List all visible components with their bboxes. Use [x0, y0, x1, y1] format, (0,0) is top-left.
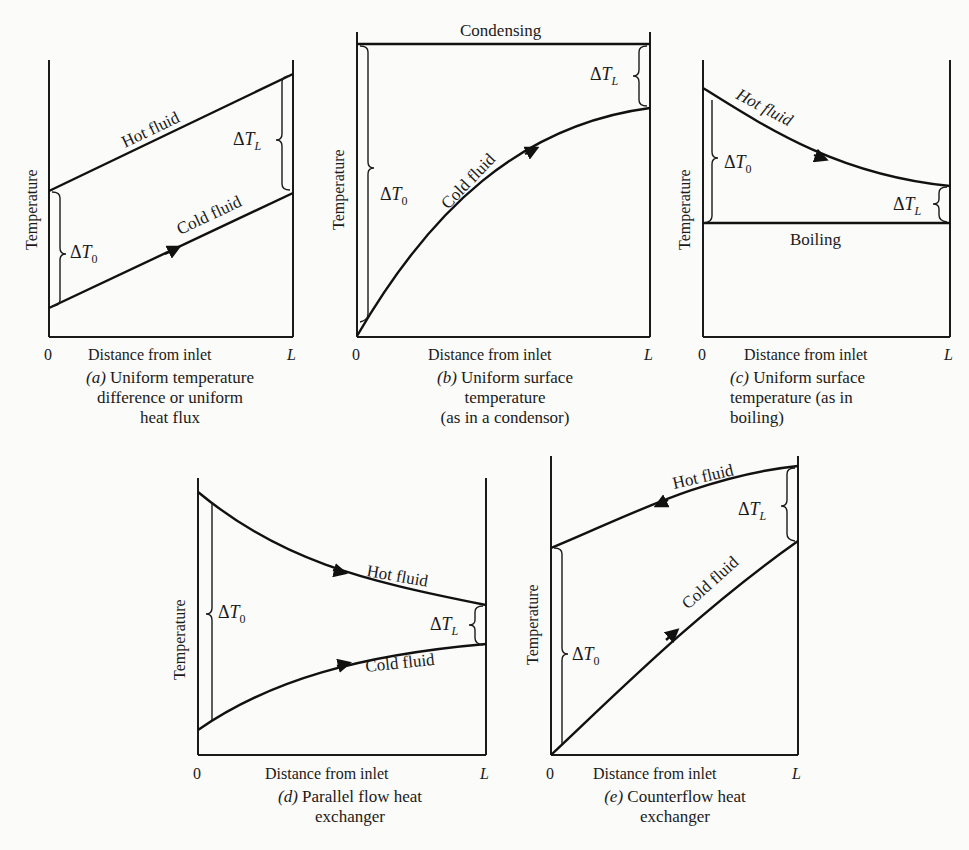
panel-b-delta-tl-label: ΔTL: [590, 64, 619, 88]
panel-c-delta-t0-label: ΔT0: [724, 152, 752, 176]
panel-d-cold-fluid-label: Cold fluid: [364, 650, 436, 676]
panel-b-caption: (b) Uniform surface temperature (as in a…: [390, 368, 620, 428]
panel-a-delta-tl-label: ΔTL: [233, 129, 262, 153]
panel-d-delta-t0-brace: [206, 503, 212, 720]
panel-c-x-end-label: L: [943, 346, 953, 363]
panel-d-delta-tl-brace: [469, 606, 483, 645]
panel-a-delta-tl-brace: [276, 76, 290, 190]
panel-e-caption-tag: (e): [604, 787, 623, 806]
panel-c-caption-tag: (c): [730, 368, 749, 387]
panel-e-x-start-label: 0: [546, 765, 554, 782]
panel-c-delta-t0-brace: [704, 100, 718, 223]
panel-a-caption-tag: (a): [86, 368, 106, 387]
panel-a-x-start-label: 0: [44, 346, 52, 363]
panel-e-x-axis-label: Distance from inlet: [593, 765, 717, 782]
panel-b-cold-fluid-curve: [357, 108, 650, 336]
panel-b-delta-t0-brace: [360, 46, 374, 322]
panel-a-delta-t0-brace: [52, 192, 66, 306]
panel-d-y-axis-label: Temperature: [171, 599, 189, 680]
panel-e-delta-tl-label: ΔTL: [738, 499, 767, 523]
panel-d-cold-fluid-curve: [198, 644, 486, 730]
panel-a-x-axis-label: Distance from inlet: [88, 346, 212, 363]
panel-e-caption-line-2: exchanger: [560, 807, 790, 827]
panel-a-caption: (a) Uniform temperature difference or un…: [40, 368, 300, 428]
panel-b-delta-t0-label: ΔT0: [380, 184, 408, 208]
panel-c-delta-tl-brace: [933, 187, 947, 222]
panel-c-y-axis-label: Temperature: [676, 169, 694, 250]
panel-b-condensing: ΔT0 ΔTL Condensing Cold fluid Temperatur…: [330, 21, 653, 363]
panel-a-caption-line-3: heat flux: [40, 408, 300, 428]
panel-d-caption-line-2: exchanger: [230, 807, 470, 827]
panel-d-hot-fluid-curve: [198, 492, 486, 605]
panel-c-hot-flow-arrow-icon: [814, 155, 822, 158]
panel-e-caption: (e) Counterflow heat exchanger: [560, 787, 790, 827]
panel-a-delta-t0-label: ΔT0: [70, 242, 98, 266]
panel-e-delta-t0-brace: [554, 548, 568, 744]
panel-c-x-start-label: 0: [698, 346, 706, 363]
panel-b-cold-fluid-label: Cold fluid: [437, 149, 499, 212]
panel-c-boiling: ΔT0 ΔTL Hot fluid Boiling Temperature 0 …: [676, 60, 953, 363]
panel-d-x-start-label: 0: [193, 765, 201, 782]
panel-b-x-start-label: 0: [352, 346, 360, 363]
panel-a-hot-fluid-line: [49, 74, 293, 191]
panel-d-caption-line-1: Parallel flow heat: [298, 787, 422, 806]
panel-a-uniform-temperature-difference: ΔT0 ΔTL Hot fluid Cold fluid Temperature…: [23, 60, 296, 363]
panel-c-caption-line-3: boiling): [730, 408, 930, 428]
panel-e-y-axis-label: Temperature: [524, 584, 542, 665]
panel-e-delta-tl-brace: [781, 468, 795, 541]
panel-d-delta-tl-label: ΔTL: [430, 614, 459, 638]
panel-c-delta-tl-label: ΔTL: [893, 194, 922, 218]
panel-c-boiling-label: Boiling: [790, 230, 842, 249]
panel-e-x-end-label: L: [791, 765, 801, 782]
panel-c-caption: (c) Uniform surface temperature (as in b…: [730, 368, 930, 428]
panel-b-caption-line-1: Uniform surface: [457, 368, 573, 387]
panel-e-cold-flow-arrow-icon: [666, 633, 674, 640]
panel-e-hot-fluid-label: Hot fluid: [671, 460, 736, 493]
panel-a-y-axis-label: Temperature: [23, 169, 41, 250]
panel-a-caption-line-1: Uniform temperature: [106, 368, 254, 387]
panel-b-delta-tl-brace: [633, 46, 647, 106]
panel-c-caption-line-2: temperature (as in: [730, 388, 930, 408]
panel-b-condensing-label: Condensing: [460, 21, 542, 40]
panel-d-parallel-flow: ΔT0 ΔTL Hot fluid Cold fluid Temperature…: [171, 478, 489, 782]
panel-d-caption-tag: (d): [278, 787, 298, 806]
panel-d-delta-t0-label: ΔT0: [218, 602, 246, 626]
panel-b-caption-tag: (b): [437, 368, 457, 387]
panel-a-caption-line-2: difference or uniform: [40, 388, 300, 408]
panel-d-x-axis-label: Distance from inlet: [265, 765, 389, 782]
panel-b-x-end-label: L: [643, 346, 653, 363]
panel-e-cold-fluid-label: Cold fluid: [678, 552, 743, 613]
panel-c-caption-line-1: Uniform surface: [749, 368, 865, 387]
panel-c-hot-fluid-label: Hot fluid: [732, 84, 796, 130]
panel-e-delta-t0-label: ΔT0: [572, 644, 600, 668]
panel-d-x-end-label: L: [479, 765, 489, 782]
panel-b-caption-line-2: temperature: [390, 388, 620, 408]
panel-e-caption-line-1: Counterflow heat: [623, 787, 746, 806]
panel-a-hot-fluid-label: Hot fluid: [119, 108, 183, 152]
panel-e-counterflow: ΔT0 ΔTL Hot fluid Cold fluid Temperature…: [524, 456, 801, 782]
panel-d-caption: (d) Parallel flow heat exchanger: [230, 787, 470, 827]
panel-c-x-axis-label: Distance from inlet: [744, 346, 868, 363]
panel-b-caption-line-3: (as in a condensor): [390, 408, 620, 428]
panel-b-x-axis-label: Distance from inlet: [428, 346, 552, 363]
panel-b-y-axis-label: Temperature: [330, 149, 348, 230]
panel-a-x-end-label: L: [286, 346, 296, 363]
